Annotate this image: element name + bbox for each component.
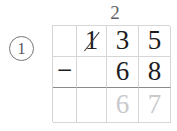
minuend-cell-2[interactable]: 3 (107, 26, 139, 57)
minuend-cell-0[interactable] (53, 26, 77, 57)
subtrahend-cell-2[interactable]: 6 (107, 57, 139, 88)
answer-cell-3[interactable]: 7 (139, 88, 171, 123)
subtraction-problem: 1 2 1 3 5 − 6 8 (0, 0, 177, 131)
problem-number-label: 1 (18, 40, 26, 56)
minus-operator-icon: − (57, 57, 72, 84)
answer-cell-2[interactable]: 6 (107, 88, 139, 123)
subtrahend-digit-3: 8 (148, 58, 162, 85)
subtrahend-cell-3[interactable]: 8 (139, 57, 171, 88)
minuend-cell-1-struck[interactable]: 1 (77, 26, 107, 57)
minuend-cell-3[interactable]: 5 (139, 26, 171, 57)
answer-cell-1[interactable] (77, 88, 107, 123)
minuend-digit-2: 3 (116, 27, 130, 54)
computation-grid: 1 3 5 − 6 8 6 7 (52, 25, 170, 122)
minuend-digit-3: 5 (148, 27, 162, 54)
answer-digit-2: 6 (116, 91, 130, 118)
regroup-annotation-tens: 2 (104, 1, 126, 23)
subtrahend-digit-2: 6 (116, 58, 130, 85)
answer-cell-0[interactable] (53, 88, 77, 123)
operator-cell[interactable]: − (53, 57, 77, 88)
answer-digit-3: 7 (148, 91, 162, 118)
subtrahend-cell-1[interactable] (77, 57, 107, 88)
problem-number-badge: 1 (9, 36, 34, 61)
